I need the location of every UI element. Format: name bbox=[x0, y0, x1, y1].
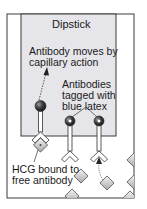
dipstick-label: Dipstick bbox=[52, 19, 91, 30]
tagged-label-line3: blue latex bbox=[62, 101, 107, 112]
hcg-label-line2: free antibody bbox=[12, 175, 73, 186]
capillary-label-line2: capillary action bbox=[29, 57, 98, 68]
